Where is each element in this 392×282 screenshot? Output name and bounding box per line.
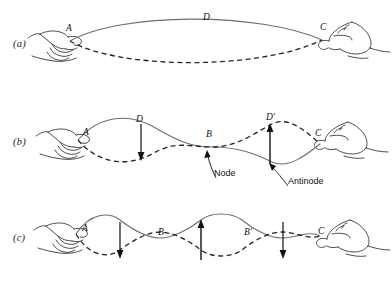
left-hand-icon bbox=[36, 129, 89, 159]
point-label-c-B: B bbox=[158, 227, 164, 237]
panel-a-drawing bbox=[0, 0, 392, 94]
down-arrow-1 bbox=[117, 222, 124, 259]
point-label-b-C: C bbox=[315, 128, 321, 138]
down-arrow-2 bbox=[280, 222, 287, 259]
point-label-b-B: B bbox=[206, 129, 212, 139]
point-label-b-D-prime: D' bbox=[266, 112, 275, 122]
node-label: Node bbox=[214, 168, 236, 178]
panel-b: (b) bbox=[0, 94, 392, 190]
rope-dashed-curve bbox=[70, 40, 322, 63]
right-hand-icon bbox=[315, 122, 389, 158]
point-label-c-A: A bbox=[82, 223, 88, 233]
antinode-leader-arrow bbox=[269, 163, 288, 186]
standing-wave-figure: (a) bbox=[0, 0, 392, 282]
point-label-a-D: D bbox=[203, 12, 210, 22]
point-label-b-D: D bbox=[136, 114, 143, 124]
panel-b-drawing bbox=[0, 94, 392, 190]
antinode-label: Antinode bbox=[288, 176, 324, 186]
left-hand-icon bbox=[34, 223, 87, 253]
right-hand-icon bbox=[319, 22, 391, 58]
point-label-c-C: C bbox=[318, 226, 324, 236]
left-hand-icon bbox=[28, 31, 81, 61]
rope-solid-curve bbox=[78, 118, 320, 164]
panel-c: (c) bbox=[0, 190, 392, 282]
up-arrow-1 bbox=[267, 123, 274, 164]
point-label-b-A: A bbox=[83, 127, 89, 137]
point-label-a-C: C bbox=[320, 22, 326, 32]
rope-dashed-curve bbox=[78, 122, 320, 162]
rope-solid-curve bbox=[70, 19, 322, 41]
right-hand-icon bbox=[317, 220, 391, 256]
panel-a: (a) bbox=[0, 0, 392, 94]
point-label-a-A: A bbox=[66, 23, 72, 33]
down-arrow-1 bbox=[138, 124, 145, 161]
panel-c-drawing bbox=[0, 190, 392, 282]
up-arrow-1 bbox=[198, 219, 205, 260]
point-label-c-B-prime: B' bbox=[244, 227, 252, 237]
